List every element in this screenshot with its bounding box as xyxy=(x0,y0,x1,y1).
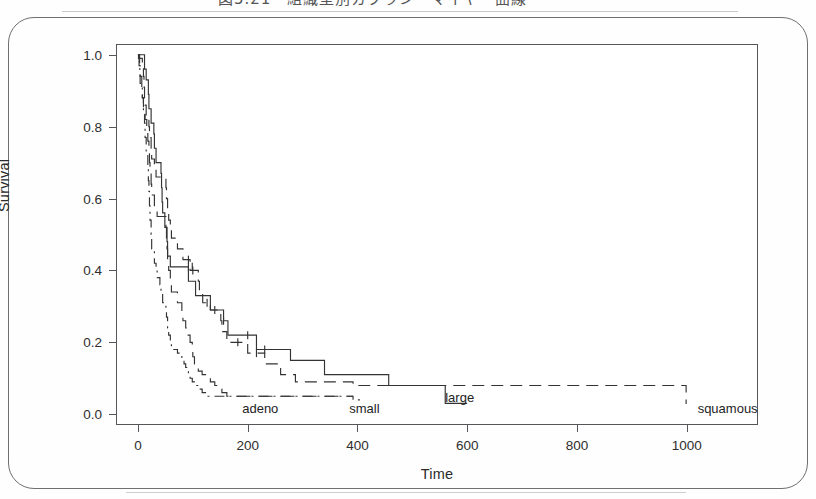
x-tickmark xyxy=(687,425,688,432)
y-tick-label: 0.0 xyxy=(50,407,102,422)
survival-curves-svg xyxy=(116,44,758,425)
survival-curve-small xyxy=(138,55,353,396)
x-tickmark xyxy=(577,425,578,432)
y-tickmark xyxy=(109,127,116,128)
y-tick-label: 0.4 xyxy=(50,263,102,278)
y-tick-label: 0.8 xyxy=(50,119,102,134)
x-tick-label: 200 xyxy=(236,438,259,453)
y-tickmark xyxy=(109,414,116,415)
y-tick-label: 0.6 xyxy=(50,191,102,206)
curve-label-large: large xyxy=(445,390,474,405)
curve-label-squamous: squamous xyxy=(698,401,758,416)
x-tickmark xyxy=(248,425,249,432)
x-tickmark xyxy=(138,425,139,432)
x-tick-label: 0 xyxy=(134,438,142,453)
figure-caption-strip: 図5.21 組織型別カプラン・マイヤー曲線 xyxy=(0,0,816,9)
curve-label-adeno: adeno xyxy=(242,401,278,416)
y-tick-label: 1.0 xyxy=(50,47,102,62)
curve-label-small: small xyxy=(349,401,379,416)
y-tick-label: 0.2 xyxy=(50,335,102,350)
x-tick-label: 400 xyxy=(346,438,369,453)
x-tick-label: 800 xyxy=(566,438,589,453)
x-axis-label: Time xyxy=(421,466,453,482)
y-tickmark xyxy=(109,270,116,271)
scan-rule-bottom xyxy=(126,492,686,493)
x-tickmark xyxy=(467,425,468,432)
scan-rule-top xyxy=(62,11,738,12)
survival-curve-adeno xyxy=(138,55,364,400)
y-tickmark xyxy=(109,55,116,56)
y-tickmark xyxy=(109,342,116,343)
survival-curve-large xyxy=(138,55,467,404)
survival-curve-squamous xyxy=(138,55,687,404)
y-axis-label: Survival xyxy=(0,159,12,212)
y-tickmark xyxy=(109,199,116,200)
x-tick-label: 600 xyxy=(456,438,479,453)
x-tick-label: 1000 xyxy=(672,438,702,453)
figure-page: 図5.21 組織型別カプラン・マイヤー曲線 0.00.20.40.60.81.0… xyxy=(0,0,816,499)
x-tickmark xyxy=(357,425,358,432)
figure-caption: 図5.21 組織型別カプラン・マイヤー曲線 xyxy=(218,0,527,8)
